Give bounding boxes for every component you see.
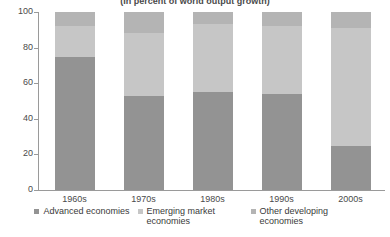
- bar-segment-2000s-2: [331, 12, 371, 28]
- bar-segment-1990s-2: [262, 12, 302, 26]
- stacked-bar-chart: (In percent of world output growth) 0204…: [0, 0, 390, 237]
- bar-segment-1980s-2: [193, 12, 233, 24]
- x-label-1970s: 1970s: [114, 194, 174, 204]
- bar-segment-1970s-0: [124, 96, 164, 190]
- bar-segment-1990s-1: [262, 26, 302, 94]
- bar-1960s[interactable]: [55, 12, 95, 190]
- y-tick-0: [34, 190, 39, 191]
- legend-label-2: Other developing economies: [260, 206, 356, 226]
- y-tick-80: [34, 48, 39, 49]
- legend-item-2[interactable]: Other developing economies: [251, 206, 356, 226]
- x-label-1990s: 1990s: [252, 194, 312, 204]
- chart-title: (In percent of world output growth): [0, 0, 390, 6]
- y-tick-label-40: 40: [7, 114, 33, 123]
- y-tick-label-20: 20: [7, 149, 33, 158]
- legend-swatch-icon-0: [34, 209, 39, 214]
- bar-1990s[interactable]: [262, 12, 302, 190]
- bar-1970s[interactable]: [124, 12, 164, 190]
- bar-segment-1990s-0: [262, 94, 302, 190]
- y-tick-label-60: 60: [7, 78, 33, 87]
- x-label-1960s: 1960s: [45, 194, 105, 204]
- bar-segment-1960s-0: [55, 57, 95, 191]
- bar-2000s[interactable]: [331, 12, 371, 190]
- bar-segment-1980s-1: [193, 24, 233, 92]
- bar-segment-1960s-1: [55, 26, 95, 56]
- x-label-2000s: 2000s: [321, 194, 381, 204]
- bar-segment-1960s-2: [55, 12, 95, 26]
- legend-swatch-icon-1: [138, 209, 143, 214]
- bar-segment-2000s-0: [331, 146, 371, 191]
- legend-label-1: Emerging market economies: [147, 206, 243, 226]
- legend-swatch-icon-2: [251, 209, 256, 214]
- y-tick-label-100: 100: [7, 7, 33, 16]
- chart-legend: Advanced economiesEmerging market econom…: [0, 206, 390, 226]
- plot-area: 020406080100 1960s1970s1980s1990s2000s: [40, 12, 385, 190]
- y-axis-line: [38, 12, 39, 190]
- bar-1980s[interactable]: [193, 12, 233, 190]
- y-tick-label-0: 0: [7, 185, 33, 194]
- y-tick-label-80: 80: [7, 43, 33, 52]
- x-axis-line: [38, 190, 385, 191]
- bar-segment-1970s-1: [124, 33, 164, 95]
- y-tick-40: [34, 119, 39, 120]
- legend-label-0: Advanced economies: [43, 206, 129, 216]
- bar-segment-2000s-1: [331, 28, 371, 145]
- x-label-1980s: 1980s: [183, 194, 243, 204]
- bar-segment-1970s-2: [124, 12, 164, 33]
- bar-segment-1980s-0: [193, 92, 233, 190]
- y-tick-20: [34, 154, 39, 155]
- legend-item-1[interactable]: Emerging market economies: [138, 206, 243, 226]
- legend-item-0[interactable]: Advanced economies: [34, 206, 129, 216]
- y-tick-100: [34, 12, 39, 13]
- y-tick-60: [34, 83, 39, 84]
